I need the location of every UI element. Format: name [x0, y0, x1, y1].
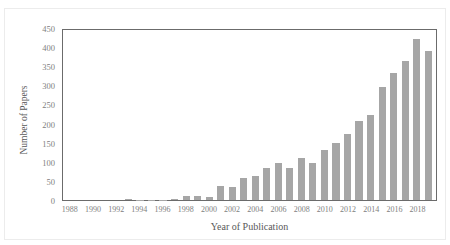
bar-slot	[123, 30, 135, 200]
y-tick-label: 300	[42, 82, 55, 91]
bar	[171, 199, 178, 200]
x-axis-title: Year of Publication	[62, 221, 437, 232]
bar-slot	[296, 30, 308, 200]
bar	[229, 187, 236, 200]
bar-slot	[365, 30, 377, 200]
bar	[298, 158, 305, 200]
bar-slot	[203, 30, 215, 200]
bar-slot	[273, 30, 285, 200]
x-tick-label: 1998	[178, 205, 194, 215]
clipped-caption-strip	[0, 0, 450, 7]
bar-slot	[180, 30, 192, 200]
bar-slot	[399, 30, 411, 200]
bar	[183, 196, 190, 200]
bar	[413, 39, 420, 200]
bar-slot	[411, 30, 423, 200]
x-tick-label: 1996	[155, 205, 171, 215]
bar-slot	[146, 30, 158, 200]
bar	[367, 115, 374, 200]
bar-slot	[100, 30, 112, 200]
bar-slot	[330, 30, 342, 200]
bar	[263, 168, 270, 200]
y-tick-label: 350	[42, 63, 55, 72]
bar-slot	[77, 30, 89, 200]
x-tick-label: 1994	[131, 205, 147, 215]
y-tick-label: 150	[42, 139, 55, 148]
bar-slot	[65, 30, 77, 200]
bar	[252, 176, 259, 200]
bar-slot	[192, 30, 204, 200]
bar	[355, 121, 362, 200]
bar	[217, 186, 224, 200]
x-tick-label: 2012	[340, 205, 356, 215]
bar-slot	[134, 30, 146, 200]
bar-slot	[307, 30, 319, 200]
figure-bar-chart: Number of Papers 05010015020025030035040…	[0, 0, 450, 245]
bar	[332, 143, 339, 200]
bar	[309, 163, 316, 200]
y-tick-label: 100	[42, 158, 55, 167]
x-axis-tick-labels: 1988199019921994199619982000200220042006…	[62, 205, 437, 217]
y-tick-label: 0	[51, 197, 55, 206]
bar-slot	[422, 30, 434, 200]
bar	[344, 134, 351, 200]
y-tick-label: 450	[42, 25, 55, 34]
bar-slot	[250, 30, 262, 200]
bar-slot	[215, 30, 227, 200]
x-tick-label: 2006	[270, 205, 286, 215]
x-tick-label: 2016	[386, 205, 402, 215]
y-tick-label: 50	[47, 177, 56, 186]
x-tick-label: 2000	[201, 205, 217, 215]
x-tick-label: 1992	[108, 205, 124, 215]
bar	[379, 87, 386, 200]
bar-slot	[376, 30, 388, 200]
bar	[402, 61, 409, 200]
x-tick-label: 1988	[62, 205, 78, 215]
bar-slot	[388, 30, 400, 200]
x-tick-label: 2014	[363, 205, 379, 215]
y-tick-label: 250	[42, 101, 55, 110]
bar	[275, 163, 282, 200]
x-tick-label: 2018	[410, 205, 426, 215]
bar-slot	[226, 30, 238, 200]
y-tick-label: 400	[42, 44, 55, 53]
bar	[194, 196, 201, 200]
bar	[125, 199, 132, 200]
x-tick-label: 1990	[85, 205, 101, 215]
bar	[206, 197, 213, 200]
bar	[390, 73, 397, 200]
bar-slot	[157, 30, 169, 200]
bar-slot	[111, 30, 123, 200]
y-tick-label: 200	[42, 120, 55, 129]
bar	[321, 150, 328, 200]
bar-slot	[353, 30, 365, 200]
x-tick-label: 2008	[294, 205, 310, 215]
bar-slot	[261, 30, 273, 200]
x-tick-label: 2002	[224, 205, 240, 215]
x-tick-label: 2010	[317, 205, 333, 215]
bar-series	[63, 30, 436, 200]
y-axis-tick-labels: 050100150200250300350400450	[5, 29, 58, 201]
bar-slot	[342, 30, 354, 200]
chart-card: Number of Papers 05010015020025030035040…	[4, 8, 446, 240]
bar-slot	[169, 30, 181, 200]
bar-slot	[319, 30, 331, 200]
bar-slot	[88, 30, 100, 200]
bar-slot	[238, 30, 250, 200]
bar-slot	[284, 30, 296, 200]
plot-area	[62, 29, 437, 201]
x-tick-label: 2004	[247, 205, 263, 215]
bar	[240, 178, 247, 200]
bar	[286, 168, 293, 200]
bar	[425, 51, 432, 200]
